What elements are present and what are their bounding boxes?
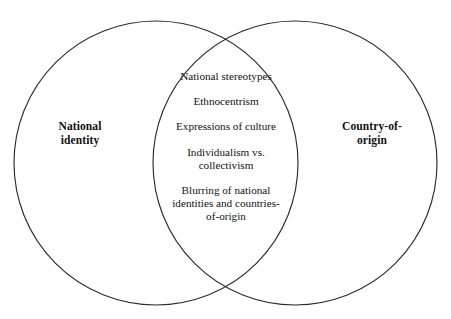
intersection-item: Expressions of culture [130,120,322,133]
intersection-item-list: National stereotypes Ethnocentrism Expre… [130,70,322,224]
intersection-item: Blurring of national identities and coun… [130,184,322,224]
set-label-national-identity: National identity [30,120,130,147]
set-label-country-of-origin: Country-of- origin [322,120,422,147]
intersection-item: Individualism vs. collectivism [130,146,322,172]
intersection-item: Ethnocentrism [130,95,322,108]
venn-diagram-figure: National identity Country-of- origin Nat… [0,0,451,319]
intersection-item: National stereotypes [130,70,322,83]
